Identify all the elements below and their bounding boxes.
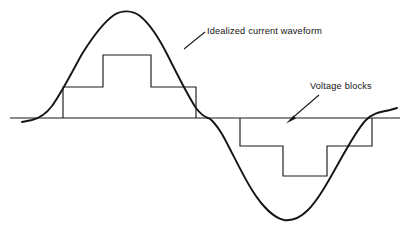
waveform-figure: Idealized current waveform Voltage block… xyxy=(0,0,417,233)
voltage-block-negative xyxy=(240,118,372,176)
voltage-block-positive xyxy=(63,55,196,118)
idealized-current-waveform-curve xyxy=(22,11,397,220)
voltage-blocks-leader-line xyxy=(290,95,319,120)
voltage-blocks-label: Voltage blocks xyxy=(310,82,372,91)
current-waveform-leader-line xyxy=(184,32,205,49)
idealized-current-waveform-label: Idealized current waveform xyxy=(207,27,322,36)
